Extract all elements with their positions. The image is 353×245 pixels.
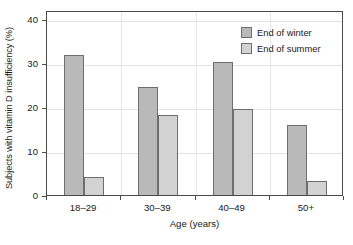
x-tick-mark (195, 196, 196, 200)
x-tick-label: 40–49 (195, 202, 269, 214)
y-tick-label: 20 (20, 103, 38, 113)
y-tick-label: 40 (20, 15, 38, 25)
x-axis-tick-labels: 18–2930–3940–4950+ (46, 202, 343, 216)
x-tick-label: 50+ (269, 202, 343, 214)
gridline-horizontal (47, 65, 342, 66)
gridline-vertical (196, 12, 197, 195)
bar-chart: Subjects with vitamin D insufficiency (%… (0, 0, 353, 245)
legend-item: End of summer (241, 41, 321, 55)
bar (84, 177, 104, 195)
x-axis-title: Age (years) (46, 218, 343, 230)
x-tick-label: 18–29 (46, 202, 120, 214)
gridline-vertical (121, 12, 122, 195)
bar (213, 62, 233, 195)
bar (158, 115, 178, 195)
legend-label: End of summer (257, 43, 321, 54)
y-tick-label: 10 (20, 147, 38, 157)
y-axis-tick-labels: 010203040 (18, 0, 38, 245)
legend-swatch (241, 43, 252, 54)
legend-item: End of winter (241, 25, 321, 39)
gridline-horizontal (47, 109, 342, 110)
y-axis-title: Subjects with vitamin D insufficiency (%… (2, 8, 16, 208)
gridline-horizontal (47, 21, 342, 22)
x-axis-tick-marks (0, 196, 353, 200)
x-tick-mark (343, 196, 344, 200)
legend-label: End of winter (257, 27, 312, 38)
bar (64, 55, 84, 195)
x-tick-mark (120, 196, 121, 200)
x-tick-label: 30–39 (120, 202, 194, 214)
x-tick-mark (269, 196, 270, 200)
legend-swatch (241, 27, 252, 38)
bar (287, 125, 307, 195)
y-tick-label: 30 (20, 59, 38, 69)
x-tick-mark (46, 196, 47, 200)
bar (233, 109, 253, 195)
bar (307, 181, 327, 195)
legend: End of winterEnd of summer (241, 25, 321, 57)
bar (138, 87, 158, 195)
